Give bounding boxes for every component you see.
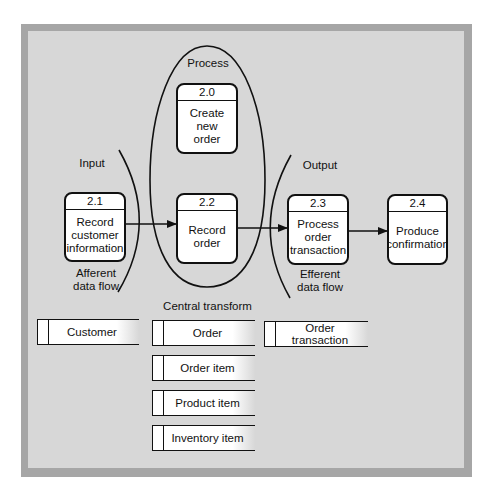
process-id: 2.4 [389, 196, 446, 212]
process-2-0[interactable]: 2.0 Create new order [176, 83, 238, 154]
data-store-id-cell [153, 391, 164, 415]
data-store-id-cell [153, 356, 164, 380]
process-id: 2.2 [178, 195, 236, 211]
data-store-name: Product item [164, 397, 255, 409]
efferent-data-flow-label: Efferent data flow [290, 268, 350, 294]
data-store-id-cell [153, 321, 164, 345]
data-store-id-cell [38, 320, 49, 344]
process-title: Process order transaction [289, 212, 347, 263]
input-region-label: Input [72, 157, 112, 170]
data-store-name: Order item [164, 362, 255, 374]
data-store-name: Inventory item [164, 432, 255, 444]
process-title: Record customer information [66, 210, 124, 260]
data-store-id-cell [265, 322, 276, 346]
process-2-4[interactable]: 2.4 Produce confirmation [387, 194, 448, 265]
process-id: 2.3 [289, 196, 347, 212]
data-store-product-item[interactable]: Product item [152, 390, 255, 416]
data-store-order-transaction[interactable]: Order transaction [264, 321, 368, 347]
process-2-2[interactable]: 2.2 Record order [176, 193, 238, 264]
process-id: 2.1 [66, 194, 124, 210]
central-transform-label: Central transform [150, 300, 265, 313]
data-store-order-item[interactable]: Order item [152, 355, 255, 381]
output-region-label: Output [296, 159, 344, 172]
process-title: Create new order [178, 101, 236, 152]
data-store-customer[interactable]: Customer [37, 319, 139, 345]
data-store-inventory-item[interactable]: Inventory item [152, 425, 255, 451]
afferent-data-flow-label: Afferent data flow [66, 267, 126, 293]
process-id: 2.0 [178, 85, 236, 101]
process-2-1[interactable]: 2.1 Record customer information [64, 192, 126, 262]
process-title: Produce confirmation [389, 212, 446, 263]
process-title: Record order [178, 211, 236, 262]
data-store-name: Order [164, 327, 255, 339]
process-2-3[interactable]: 2.3 Process order transaction [287, 194, 349, 265]
process-region-label: Process [180, 57, 236, 70]
data-store-id-cell [153, 426, 164, 450]
data-store-order[interactable]: Order [152, 320, 255, 346]
data-store-name: Customer [49, 326, 139, 338]
data-store-name: Order transaction [276, 322, 368, 346]
